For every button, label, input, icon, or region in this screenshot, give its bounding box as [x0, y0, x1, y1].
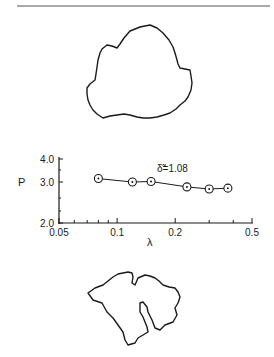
x-ticks: 0.050.10.20.5 — [49, 218, 259, 238]
data-point-dot — [186, 186, 188, 188]
p-vs-lambda-chart: 2.03.04.0 0.050.10.20.5 P λ δ̃=1.08 — [18, 154, 259, 248]
lower-outline-shape — [88, 272, 180, 345]
data-point-dot — [131, 181, 133, 183]
upper-outline-shape — [87, 25, 192, 118]
data-point-dot — [208, 188, 210, 190]
data-point-dot — [227, 187, 229, 189]
x-tick-label: 0.5 — [245, 227, 259, 238]
x-tick-label: 0.2 — [168, 227, 182, 238]
figure-canvas: 2.03.04.0 0.050.10.20.5 P λ δ̃=1.08 — [0, 0, 274, 357]
delta-annotation: δ̃=1.08 — [157, 163, 188, 174]
x-tick-label: 0.05 — [49, 227, 69, 238]
y-tick-label: 4.0 — [40, 154, 54, 165]
y-tick-label: 3.0 — [40, 177, 54, 188]
data-point-dot — [97, 178, 99, 180]
x-tick-label: 0.1 — [110, 227, 124, 238]
y-axis-label: P — [18, 176, 25, 188]
x-axis-label: λ — [147, 236, 153, 248]
data-point-dot — [150, 181, 152, 183]
